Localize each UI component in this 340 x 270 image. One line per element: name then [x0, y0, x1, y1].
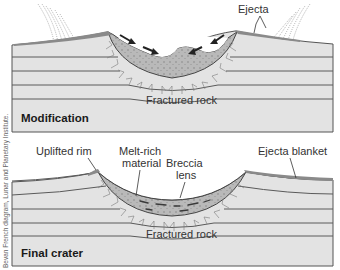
- label-ejecta-blanket: Ejecta blanket: [258, 145, 327, 157]
- ejecta-spray-right: [274, 4, 310, 40]
- label-ejecta: Ejecta: [238, 3, 269, 15]
- label-fractured-rock: Fractured rock: [146, 94, 217, 106]
- panel-title-modification: Modification: [21, 112, 89, 124]
- crater-formation-diagram: Ejecta Fractured rock Modification: [0, 0, 340, 270]
- label-fractured-rock: Fractured rock: [146, 228, 217, 240]
- label-melt-rich-2: material: [122, 157, 161, 169]
- ejecta-leader-line: [254, 16, 266, 33]
- label-melt-rich-1: Melt-rich: [119, 145, 161, 157]
- label-breccia-2: lens: [176, 169, 197, 181]
- modification-panel: Ejecta Fractured rock Modification: [12, 3, 333, 132]
- uplifted-rim-leader-line: [88, 158, 96, 170]
- ejecta-blanket-leader-line: [290, 158, 296, 178]
- final-crater-panel: Uplifted rim Melt-rich material Breccia …: [12, 145, 333, 266]
- image-credit: Bevan French diagram, Lunar and Planetar…: [2, 114, 10, 268]
- ejecta-spray-left: [38, 4, 74, 42]
- label-uplifted-rim: Uplifted rim: [36, 145, 92, 157]
- panel-title-final-crater: Final crater: [21, 247, 84, 259]
- label-breccia-1: Breccia: [166, 157, 204, 169]
